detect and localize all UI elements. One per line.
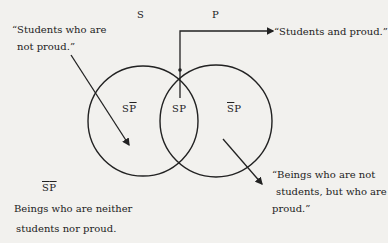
region-s-p: SP [172, 103, 187, 114]
set-label-p: P [212, 9, 219, 20]
annotation-proud-not-students: “Beings who are not students, but who ar… [272, 166, 387, 217]
circle-p [160, 65, 272, 177]
set-label-s: S [137, 9, 144, 20]
region-not-s-p: SP [227, 103, 242, 114]
arrow-students-proud [180, 31, 273, 98]
annotation-students-proud: “Students and proud.” [274, 23, 388, 40]
arrow-proud-not-students [223, 139, 262, 184]
arrow-not-proud [71, 55, 129, 145]
circle-s [88, 66, 198, 176]
region-s-not-p: SP [122, 103, 137, 114]
region-not-s-not-p: SP [42, 182, 57, 193]
annotation-not-proud: “Students who are not proud.” [12, 21, 106, 55]
annotation-neither: Beings who are neither students nor prou… [14, 199, 132, 239]
